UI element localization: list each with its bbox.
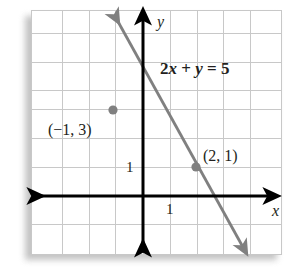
grid-panel — [31, 10, 282, 255]
grid-lines — [32, 11, 281, 254]
graph-figure: y x 1 1 (−1, 3) (2, 1) 2x + y = 5 — [0, 0, 297, 279]
